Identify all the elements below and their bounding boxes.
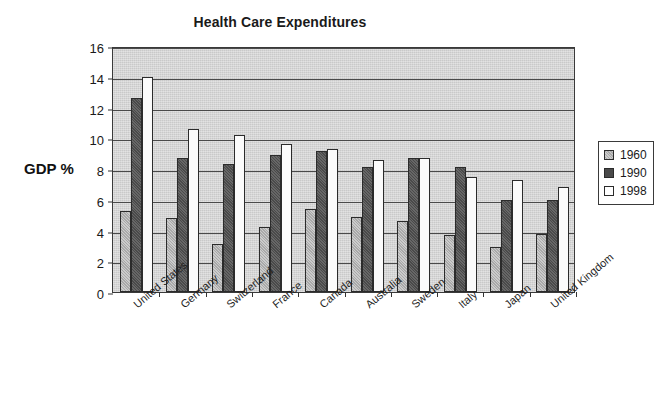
y-axis-tick-mark (108, 294, 113, 295)
bar-1960 (351, 217, 362, 292)
bar-1960 (536, 234, 547, 292)
bar-1998 (188, 129, 199, 292)
legend-label: 1998 (620, 184, 647, 198)
legend-swatch-icon (604, 186, 614, 196)
legend-item-1960: 1960 (604, 146, 647, 164)
chart-title: Health Care Expenditures (0, 14, 560, 30)
bar-1960 (305, 209, 316, 292)
bar-1998 (466, 177, 477, 292)
bar-1990 (547, 200, 558, 292)
bar-1990 (223, 164, 234, 292)
bar-group (113, 48, 159, 292)
bar-group (345, 48, 391, 292)
bar-group (483, 48, 529, 292)
bar-1998 (512, 180, 523, 292)
legend-swatch-icon (604, 168, 614, 178)
bar-1998 (419, 158, 430, 292)
bar-1960 (490, 247, 501, 292)
legend-label: 1960 (620, 148, 647, 162)
legend-label: 1990 (620, 166, 647, 180)
chart-legend: 196019901998 (598, 141, 654, 205)
bar-1990 (362, 167, 373, 292)
bar-1990 (316, 151, 327, 292)
bar-1998 (558, 187, 569, 292)
y-axis-label: GDP % (24, 160, 74, 177)
bar-group (159, 48, 205, 292)
legend-item-1990: 1990 (604, 164, 647, 182)
bar-1990 (455, 167, 466, 292)
x-axis-tick-mark (483, 292, 484, 297)
plot-area: 0246810121416 (112, 47, 575, 293)
bar-1990 (131, 98, 142, 292)
bar-1998 (327, 149, 338, 292)
bar-group (437, 48, 483, 292)
legend-item-1998: 1998 (604, 182, 647, 200)
bar-group (391, 48, 437, 292)
bar-1998 (281, 144, 292, 292)
bar-group (298, 48, 344, 292)
bar-1960 (120, 211, 131, 292)
bar-1990 (501, 200, 512, 292)
bar-1998 (142, 77, 153, 292)
bar-group (206, 48, 252, 292)
bar-1998 (373, 160, 384, 292)
bar-1990 (408, 158, 419, 292)
legend-swatch-icon (604, 150, 614, 160)
bar-group (252, 48, 298, 292)
bar-1998 (234, 135, 245, 292)
bar-group (530, 48, 576, 292)
